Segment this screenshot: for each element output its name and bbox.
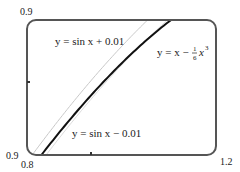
- series-line-1: [27, 0, 216, 172]
- label-taylor-prefix: y = x −: [157, 46, 189, 58]
- y-tick-label-bottom: 0.9: [6, 150, 19, 161]
- series-line-2: [27, 0, 216, 172]
- label-taylor: y = x − 1 6 x 3: [157, 44, 209, 62]
- label-taylor-frac-den: 6: [193, 54, 197, 62]
- label-taylor-exp: 3: [205, 44, 209, 52]
- y-tick-label-top: 0.9: [20, 6, 33, 17]
- x-tick-label-left: 0.8: [21, 159, 34, 170]
- label-sin-plus: y = sin x + 0.01: [55, 35, 124, 47]
- label-taylor-frac-num: 1: [193, 45, 197, 53]
- plot-curves: [27, 0, 216, 172]
- label-taylor-var: x: [198, 46, 204, 58]
- x-tick-label-right: 1.2: [220, 156, 233, 167]
- chart: 0.9 0.9 0.8 1.2 y = sin x + 0.01 y = sin…: [0, 0, 240, 172]
- label-sin-minus: y = sin x − 0.01: [72, 127, 141, 139]
